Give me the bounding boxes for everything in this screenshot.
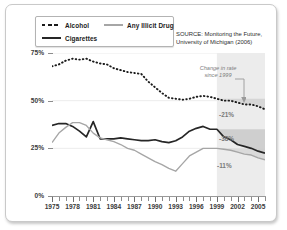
source-line-2: University of Michigan (2006) [176,39,284,47]
change-label-illicit-drug: -11% [217,162,232,169]
x-axis-tick [121,197,122,201]
x-axis-tick [141,197,142,201]
y-axis-tick [48,101,53,102]
change-annotation: Change in rate since 1999 [192,65,244,79]
y-axis-tick-label: 0% [20,192,44,199]
x-axis-tick [128,197,129,201]
x-axis-tick [114,197,115,203]
x-axis-tick [258,197,259,203]
x-axis-tick [251,197,252,201]
y-axis-tick-label: 75% [20,49,44,56]
x-axis-tick [86,197,87,201]
x-axis-tick [162,197,163,201]
x-axis-tick [155,197,156,203]
x-axis-tick [59,197,60,201]
change-label-alcohol: -21% [219,111,234,118]
x-axis-tick [217,197,218,203]
x-axis-tick [66,197,67,201]
x-axis-tick [203,197,204,201]
x-axis-tick-label: 1996 [189,203,204,210]
x-axis-tick [189,197,190,201]
x-axis-tick [183,197,184,201]
annotation-line-1: Change in rate [192,65,244,72]
legend-item-cigarettes: Cigarettes [42,34,97,42]
x-axis-tick [210,197,211,201]
x-axis-tick-label: 1984 [106,203,121,210]
legend-label-alcohol: Alcohol [65,22,89,29]
solid-line-icon [42,34,61,42]
x-axis-tick-label: 1999 [210,203,225,210]
legend-label-illicit-drug: Any Illicit Drug [127,22,174,29]
x-axis-tick-label: 2005 [251,203,266,210]
x-axis-tick [231,197,232,201]
x-axis-tick [238,197,239,203]
x-axis-tick [100,197,101,201]
x-axis-tick-label: 1981 [86,203,101,210]
dashed-line-icon [42,21,61,29]
y-axis-tick [48,148,53,149]
chart-screenshot: Alcohol Cigarettes Any Illicit Drug SOUR… [0,0,287,230]
x-axis-tick-label: 1978 [65,203,80,210]
legend-item-illicit-drug: Any Illicit Drug [104,21,174,29]
x-axis-tick [93,197,94,203]
x-axis-tick-label: 1987 [127,203,142,210]
x-axis-tick-label: 1975 [45,203,60,210]
y-axis-labels [22,53,48,196]
source-note: SOURCE: Monitoring the Future, Universit… [176,31,284,46]
x-axis-tick [79,197,80,201]
down-arrow-icon [234,78,246,104]
legend-item-alcohol: Alcohol [42,21,89,29]
y-axis-tick-label: 50% [20,97,44,104]
solid-gray-line-icon [104,21,123,29]
x-axis-tick [107,197,108,201]
x-axis-tick-label: 2002 [230,203,245,210]
change-label-cigarettes: -38% [219,135,234,142]
x-axis-tick [196,197,197,203]
legend-label-cigarettes: Cigarettes [65,35,97,42]
x-axis-tick [265,197,266,201]
x-axis-tick [148,197,149,201]
y-axis-tick [48,53,53,54]
x-axis-tick [224,197,225,201]
x-axis-tick-label: 1990 [148,203,163,210]
source-line-1: SOURCE: Monitoring the Future, [176,31,284,39]
y-axis-tick-label: 25% [20,144,44,151]
chart-card: Alcohol Cigarettes Any Illicit Drug SOUR… [5,4,277,222]
x-axis-line [52,196,266,197]
x-axis-tick-label: 1993 [168,203,183,210]
chart-legend: Alcohol Cigarettes Any Illicit Drug [35,16,174,47]
x-axis-tick [169,197,170,201]
x-axis-tick [176,197,177,203]
x-axis-tick [52,197,53,203]
x-axis-tick [244,197,245,201]
x-axis-tick [73,197,74,203]
x-axis-tick [134,197,135,203]
